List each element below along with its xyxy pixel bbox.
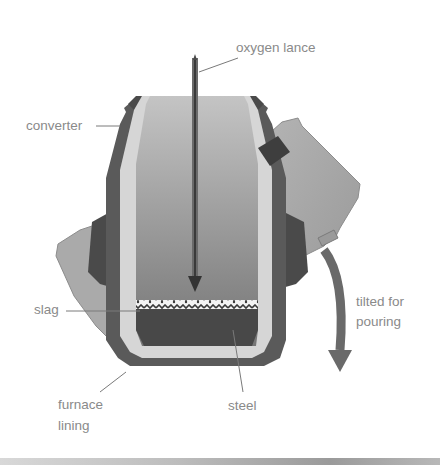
label-oxygen-lance: oxygen lance bbox=[236, 40, 316, 55]
label-steel: steel bbox=[228, 398, 257, 413]
leader-furnace-lining bbox=[100, 372, 126, 392]
label-tilted-line1: tilted for bbox=[356, 294, 405, 309]
label-slag: slag bbox=[34, 302, 59, 317]
leader-oxygen-lance bbox=[199, 58, 238, 72]
label-furnace-line1: furnace bbox=[58, 397, 103, 412]
bottom-border bbox=[0, 458, 440, 465]
converter-diagram: oxygen lance converter slag tilted for p… bbox=[0, 0, 440, 465]
slag-layer bbox=[136, 300, 258, 309]
label-tilted-line2: pouring bbox=[356, 314, 401, 329]
label-converter: converter bbox=[26, 118, 83, 133]
molten-steel bbox=[136, 308, 258, 346]
label-furnace-line2: lining bbox=[58, 418, 90, 433]
tilt-arrow-icon bbox=[324, 250, 352, 372]
